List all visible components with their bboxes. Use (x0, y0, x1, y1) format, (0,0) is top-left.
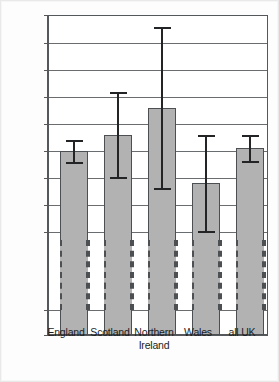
y-tickmark-23 (44, 151, 49, 152)
x-tick-all-uk: all UK (214, 326, 270, 339)
errorbar-scotland (104, 92, 132, 179)
axis-break-dash-gap-3 (132, 240, 134, 310)
errorbar-northern-ireland (148, 27, 176, 190)
bar-break-wales (192, 240, 220, 310)
axis-break-dash-gap-9 (264, 240, 266, 310)
errorbar-wales (192, 135, 220, 233)
y-tickmark-20 (44, 232, 49, 233)
errorbar-england (60, 140, 88, 164)
bar-break-scotland (104, 240, 132, 310)
y-tickmark-24 (44, 124, 49, 125)
y-tickmark-25 (44, 97, 49, 98)
chart-figure: prostate cancer mortality rate (per 100 … (0, 0, 279, 382)
bar-break-all-uk (236, 240, 264, 310)
axis-break-dash-gap-1 (88, 240, 90, 310)
bar-break-england (60, 240, 88, 310)
y-tickmark-21 (44, 205, 49, 206)
axis-break-dash-gap-7 (220, 240, 222, 310)
y-tickmark-22 (44, 178, 49, 179)
y-tickmark-27 (44, 43, 49, 44)
errorbar-all-uk (236, 135, 264, 163)
axis-break-dash-yaxis (47, 240, 49, 310)
axis-break-dash-gap-4 (148, 240, 150, 310)
axis-break-dash-gap-5 (176, 240, 178, 310)
y-tickmark-28 (44, 15, 49, 16)
bar-break-northern-ireland (148, 240, 176, 310)
y-tickmark-26 (44, 70, 49, 71)
plot-area (47, 15, 268, 336)
axis-break-dash-gap-2 (104, 240, 106, 310)
y-tickmark-1 (44, 310, 49, 311)
axis-break-dash-gap-8 (236, 240, 238, 310)
axis-break-dash-gap-6 (192, 240, 194, 310)
